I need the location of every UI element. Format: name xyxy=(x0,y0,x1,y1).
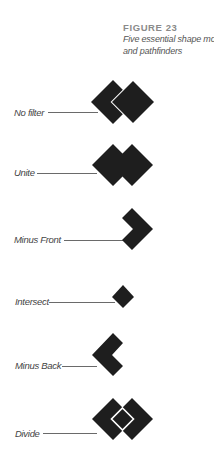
no-filter-shape-icon xyxy=(91,80,154,124)
divide-shape-icon xyxy=(92,398,153,440)
intersect-shape-icon xyxy=(112,285,134,308)
minus-back-shape-icon xyxy=(92,333,123,376)
shape-modes-diagram xyxy=(0,0,214,462)
minus-front-shape-icon xyxy=(122,208,153,250)
unite-shape-icon xyxy=(92,144,153,186)
